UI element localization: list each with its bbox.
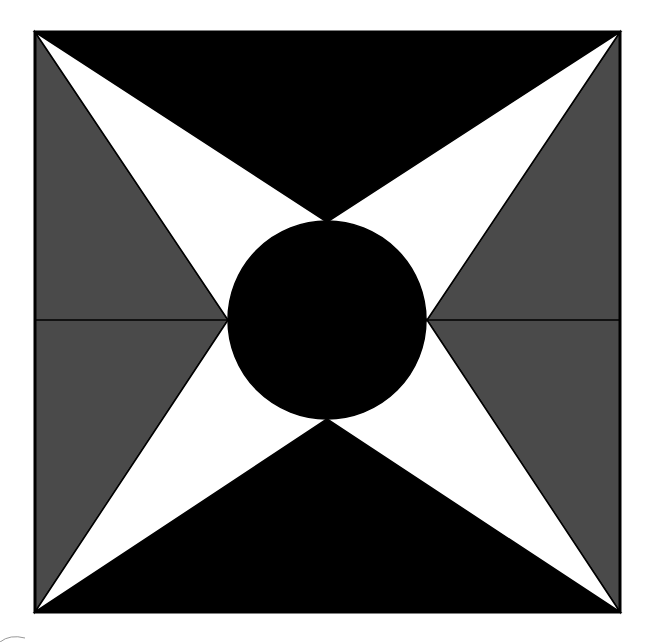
quilt-block-diagram bbox=[0, 0, 651, 642]
corner-arc-artifact bbox=[0, 637, 25, 642]
center-circle bbox=[228, 221, 426, 419]
